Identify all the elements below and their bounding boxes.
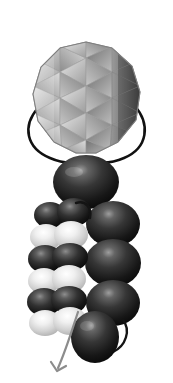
neck-collar-sphere [53,155,119,209]
figure-root: Bacteriophage structural model Head Coll… [0,0,173,383]
tail-sphere-right-2 [85,239,141,287]
bacteriophage-illustration [0,0,173,383]
tail-helix-sphere-stack-left [27,198,91,336]
tail-sphere-column-right [85,201,141,326]
baseplate-sphere [71,311,119,363]
